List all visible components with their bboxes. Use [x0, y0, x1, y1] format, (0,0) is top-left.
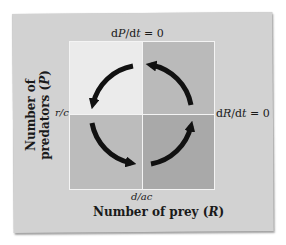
label-part: )	[38, 70, 52, 76]
label-part: = 0	[141, 27, 164, 40]
label-part: P	[38, 76, 52, 85]
label-part: d	[216, 107, 223, 120]
label-part: /d	[125, 27, 136, 40]
y-axis-label: Number ofpredators (P)	[24, 70, 52, 160]
label-part: Number of	[24, 70, 38, 160]
quadrant-bottom-right	[143, 115, 214, 189]
quadrant-top-left	[70, 42, 142, 114]
label-part: R	[208, 205, 218, 219]
figure: dP/dt = 0 dR/dt = 0 r/c d/ac Number of p…	[0, 0, 286, 245]
predator-isocline-line	[142, 42, 143, 189]
predator-isocline-label: dP/dt = 0	[111, 27, 164, 40]
label-part: /d	[231, 107, 242, 120]
equilibrium-y-tick: r/c	[55, 107, 69, 118]
equilibrium-x-tick: d/ac	[131, 191, 152, 202]
label-part: = 0	[247, 107, 270, 120]
label-part: d	[111, 27, 118, 40]
label-part: predators (	[38, 85, 52, 160]
label-part: Number of prey (	[93, 205, 208, 219]
quadrant-bottom-left	[70, 115, 142, 189]
phase-plane	[70, 42, 214, 189]
label-line: predators (P)	[38, 70, 52, 160]
prey-isocline-label: dR/dt = 0	[216, 107, 270, 120]
x-axis-label: Number of prey (R)	[93, 205, 224, 219]
label-part: )	[218, 205, 224, 219]
quadrant-top-right	[143, 42, 214, 114]
